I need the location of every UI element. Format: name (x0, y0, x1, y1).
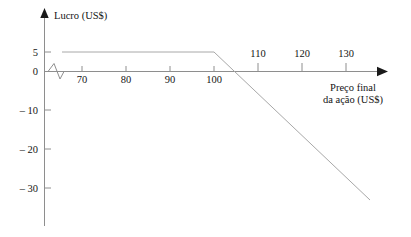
y-axis-arrow-icon (40, 8, 48, 18)
y-axis-ticks (45, 52, 52, 188)
y-tick-label-minus20: – 20 (19, 144, 38, 155)
payoff-chart: 5 0 – 10 – 20 – 30 70 80 90 100 110 120 … (0, 0, 411, 237)
x-axis-ticks-upper (258, 63, 346, 72)
x-tick-label-70: 70 (77, 74, 88, 85)
x-tick-label-80: 80 (121, 74, 132, 85)
x-axis-title-line1: Preço final (330, 82, 376, 93)
x-tick-label-110: 110 (250, 48, 265, 59)
y-tick-label-0: 0 (33, 66, 38, 77)
y-tick-label-5: 5 (33, 47, 38, 58)
x-axis-arrow-icon (377, 67, 388, 76)
x-tick-label-90: 90 (165, 74, 176, 85)
y-tick-label-minus30: – 30 (19, 183, 38, 194)
chart-container: 5 0 – 10 – 20 – 30 70 80 90 100 110 120 … (0, 0, 411, 237)
x-axis-ticks-lower (82, 66, 214, 72)
x-tick-label-100: 100 (206, 74, 222, 85)
y-tick-label-minus10: – 10 (19, 105, 38, 116)
x-axis-title-line2: da ação (US$) (323, 94, 384, 106)
x-tick-label-120: 120 (294, 48, 310, 59)
y-axis-title: Lucro (US$) (54, 10, 108, 22)
x-tick-label-130: 130 (338, 48, 354, 59)
